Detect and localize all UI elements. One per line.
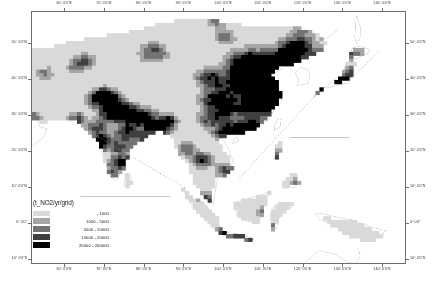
axis-label-top-7: 130° 0'0"E	[334, 2, 351, 6]
axis-tick	[28, 187, 31, 188]
axis-tick	[406, 187, 409, 188]
axis-label-right-2: 30° 0'0"N	[410, 113, 425, 117]
axis-label-bottom-6: 120° 0'0"E	[294, 268, 311, 272]
axis-label-top-6: 120° 0'0"E	[294, 2, 311, 6]
axis-label-right-6: 10° 0'0"S	[410, 257, 425, 261]
legend-item: 5000 - 10000	[33, 226, 111, 232]
legend-swatch	[33, 218, 50, 223]
legend-item: 20000 - 200000	[33, 242, 111, 248]
legend-item: - 1000	[33, 210, 111, 216]
legend-title: (t_NO2/yr/grid)	[33, 199, 111, 206]
legend-label: 1000 - 5000	[53, 219, 109, 224]
legend-swatch	[33, 242, 50, 247]
axis-tick	[28, 43, 31, 44]
legend-label: 10000 - 20000	[53, 235, 109, 240]
axis-tick	[406, 115, 409, 116]
axis-label-top-0: 60° 0'0"E	[56, 2, 71, 6]
axis-label-right-3: 20° 0'0"N	[410, 149, 425, 153]
axis-tick	[223, 8, 224, 11]
axis-label-right-1: 40° 0'0"N	[410, 77, 425, 81]
legend-swatch	[33, 226, 50, 231]
axis-label-bottom-5: 110° 0'0"E	[254, 268, 271, 272]
axis-label-top-8: 140° 0'0"E	[373, 2, 390, 6]
axis-label-top-3: 90° 0'0"E	[176, 2, 191, 6]
no2-emission-map-figure: (t_NO2/yr/grid) - 10001000 - 50005000 - …	[0, 0, 437, 282]
axis-label-left-5: 0° 0'0"	[3, 221, 27, 225]
axis-tick	[303, 8, 304, 11]
axis-tick	[406, 151, 409, 152]
axis-label-top-5: 110° 0'0"E	[254, 2, 271, 6]
axis-tick	[183, 8, 184, 11]
legend-label: 5000 - 10000	[53, 227, 109, 232]
axis-tick	[144, 8, 145, 11]
axis-tick	[28, 259, 31, 260]
legend-label: - 1000	[53, 211, 109, 216]
axis-tick	[28, 151, 31, 152]
legend: (t_NO2/yr/grid) - 10001000 - 50005000 - …	[33, 199, 111, 250]
legend-label: 20000 - 200000	[53, 243, 109, 248]
legend-item: 10000 - 20000	[33, 234, 111, 240]
legend-rows: - 10001000 - 50005000 - 1000010000 - 200…	[33, 210, 111, 248]
legend-swatch	[33, 211, 50, 216]
axis-tick	[104, 8, 105, 11]
axis-label-bottom-8: 140° 0'0"E	[373, 268, 390, 272]
axis-tick	[28, 79, 31, 80]
axis-label-left-6: 10° 0'0"S	[3, 257, 27, 261]
axis-tick	[406, 259, 409, 260]
axis-label-bottom-7: 130° 0'0"E	[334, 268, 351, 272]
legend-item: 1000 - 5000	[33, 218, 111, 224]
axis-label-top-1: 70° 0'0"E	[96, 2, 111, 6]
axis-label-left-4: 10° 0'0"N	[3, 185, 27, 189]
axis-label-bottom-2: 80° 0'0"E	[136, 268, 151, 272]
axis-label-bottom-3: 90° 0'0"E	[176, 268, 191, 272]
axis-tick	[28, 115, 31, 116]
axis-tick	[342, 8, 343, 11]
axis-tick	[406, 43, 409, 44]
axis-label-bottom-4: 100° 0'0"E	[214, 268, 231, 272]
axis-tick	[382, 8, 383, 11]
axis-tick	[28, 223, 31, 224]
axis-tick	[406, 223, 409, 224]
axis-label-right-5: 0° 0'0"	[410, 221, 421, 225]
axis-tick	[263, 8, 264, 11]
axis-label-left-1: 40° 0'0"N	[3, 77, 27, 81]
axis-label-bottom-0: 60° 0'0"E	[56, 268, 71, 272]
axis-label-left-3: 20° 0'0"N	[3, 149, 27, 153]
axis-label-left-0: 50° 0'0"N	[3, 41, 27, 45]
axis-label-right-4: 10° 0'0"N	[410, 185, 425, 189]
legend-swatch	[33, 234, 50, 239]
axis-tick	[406, 79, 409, 80]
axis-label-top-4: 100° 0'0"E	[214, 2, 231, 6]
axis-tick	[64, 8, 65, 11]
axis-label-right-0: 50° 0'0"N	[410, 41, 425, 45]
axis-label-bottom-1: 70° 0'0"E	[96, 268, 111, 272]
axis-label-left-2: 30° 0'0"N	[3, 113, 27, 117]
axis-label-top-2: 80° 0'0"E	[136, 2, 151, 6]
